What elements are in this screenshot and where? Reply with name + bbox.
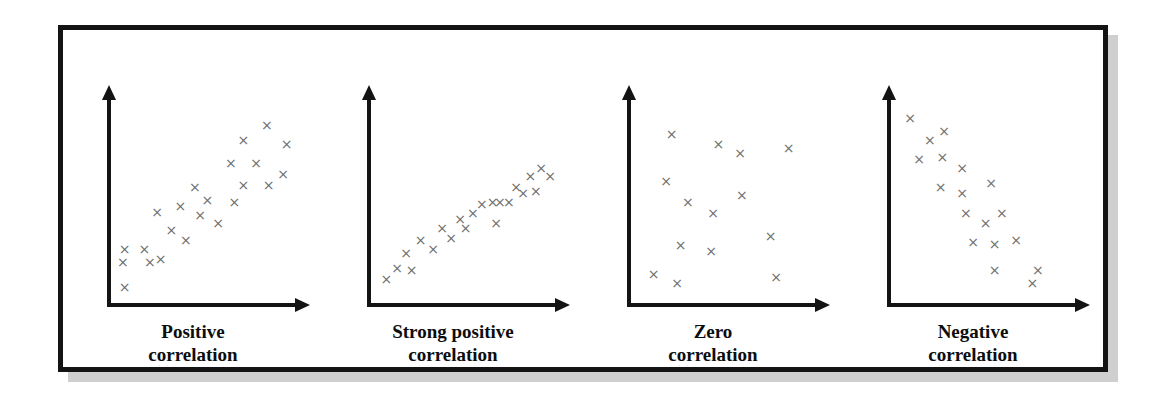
caption-line-1: Negative xyxy=(938,321,1009,342)
panel-caption: Negative correlation xyxy=(843,320,1103,366)
panel-negative-correlation: ×××××××××××××××××× Negative correlation xyxy=(843,30,1103,367)
data-point: × xyxy=(936,151,949,164)
data-point: × xyxy=(938,125,951,138)
panel-caption: Strong positive correlation xyxy=(323,320,583,366)
x-axis-arrow-icon xyxy=(555,298,570,312)
data-point: × xyxy=(405,264,418,277)
caption-line-2: correlation xyxy=(63,343,323,366)
scatter-plot-area: ×××××××××××××××××× xyxy=(887,85,1095,307)
data-point: × xyxy=(959,207,972,220)
panel-caption: Positive correlation xyxy=(63,320,323,366)
data-point: × xyxy=(138,243,151,256)
data-point: × xyxy=(459,222,472,235)
data-point: × xyxy=(735,189,748,202)
data-point: × xyxy=(154,253,167,266)
y-axis-line xyxy=(107,97,111,307)
data-point: × xyxy=(904,112,917,125)
data-point: × xyxy=(228,196,241,209)
data-point: × xyxy=(490,217,503,230)
data-point: × xyxy=(151,206,164,219)
panel-row: ××××××××××××××××××××××× Positive correla… xyxy=(63,30,1103,367)
data-point: × xyxy=(923,134,936,147)
data-point: × xyxy=(400,247,413,260)
data-point: × xyxy=(280,138,293,151)
caption-line-2: correlation xyxy=(583,343,843,366)
x-axis-arrow-icon xyxy=(815,298,830,312)
data-point: × xyxy=(250,157,263,170)
y-axis-line xyxy=(887,97,891,307)
data-point: × xyxy=(985,177,998,190)
data-point: × xyxy=(445,232,458,245)
figure-frame: ××××××××××××××××××××××× Positive correla… xyxy=(58,25,1108,372)
data-point: × xyxy=(502,196,515,209)
data-point: × xyxy=(979,217,992,230)
data-point: × xyxy=(201,194,214,207)
data-point: × xyxy=(712,138,725,151)
data-point: × xyxy=(770,271,783,284)
data-point: × xyxy=(194,209,207,222)
data-point: × xyxy=(782,142,795,155)
x-axis-arrow-icon xyxy=(295,298,310,312)
data-point: × xyxy=(913,153,926,166)
data-point: × xyxy=(188,181,201,194)
data-point: × xyxy=(427,243,440,256)
x-axis-arrow-icon xyxy=(1075,298,1090,312)
x-axis-line xyxy=(367,303,557,307)
data-point: × xyxy=(988,238,1001,251)
data-point: × xyxy=(660,175,673,188)
data-point: × xyxy=(517,187,530,200)
y-axis-arrow-icon xyxy=(362,85,376,100)
caption-line-1: Positive xyxy=(161,321,224,342)
data-point: × xyxy=(179,234,192,247)
x-axis-line xyxy=(627,303,817,307)
caption-line-2: correlation xyxy=(843,343,1103,366)
data-point: × xyxy=(956,162,969,175)
data-point: × xyxy=(1026,277,1039,290)
data-point: × xyxy=(665,128,678,141)
caption-line-2: correlation xyxy=(323,343,583,366)
data-point: × xyxy=(262,179,275,192)
x-axis-line xyxy=(887,303,1077,307)
data-point: × xyxy=(277,168,290,181)
data-point: × xyxy=(734,147,747,160)
data-point: × xyxy=(956,187,969,200)
figure-root: ××××××××××××××××××××××× Positive correla… xyxy=(0,0,1167,410)
data-point: × xyxy=(529,185,542,198)
caption-line-1: Zero xyxy=(694,321,733,342)
data-point: × xyxy=(705,245,718,258)
data-point: × xyxy=(707,207,720,220)
data-point: × xyxy=(116,256,129,269)
data-point: × xyxy=(674,239,687,252)
panel-strong-positive-correlation: ×××××××××××××××××××××× Strong positive c… xyxy=(323,30,583,367)
data-point: × xyxy=(995,207,1008,220)
y-axis-arrow-icon xyxy=(882,85,896,100)
panel-zero-correlation: ×××××××××××××× Zero correlation xyxy=(583,30,843,367)
data-point: × xyxy=(988,264,1001,277)
data-point: × xyxy=(260,119,273,132)
data-point: × xyxy=(118,243,131,256)
data-point: × xyxy=(414,234,427,247)
data-point: × xyxy=(212,217,225,230)
data-point: × xyxy=(1010,234,1023,247)
data-point: × xyxy=(647,268,660,281)
data-point: × xyxy=(174,200,187,213)
data-point: × xyxy=(967,236,980,249)
caption-line-1: Strong positive xyxy=(392,321,514,342)
data-point: × xyxy=(681,196,694,209)
y-axis-line xyxy=(367,97,371,307)
data-point: × xyxy=(237,134,250,147)
data-point: × xyxy=(237,179,250,192)
panel-positive-correlation: ××××××××××××××××××××××× Positive correla… xyxy=(63,30,323,367)
data-point: × xyxy=(764,230,777,243)
data-point: × xyxy=(544,170,557,183)
panel-caption: Zero correlation xyxy=(583,320,843,366)
scatter-plot-area: ××××××××××××××××××××××× xyxy=(107,85,315,307)
data-point: × xyxy=(671,277,684,290)
y-axis-line xyxy=(627,97,631,307)
data-point: × xyxy=(224,157,237,170)
data-point: × xyxy=(391,262,404,275)
scatter-plot-area: ×××××××××××××× xyxy=(627,85,835,307)
data-point: × xyxy=(934,181,947,194)
x-axis-line xyxy=(107,303,297,307)
data-point: × xyxy=(118,281,131,294)
